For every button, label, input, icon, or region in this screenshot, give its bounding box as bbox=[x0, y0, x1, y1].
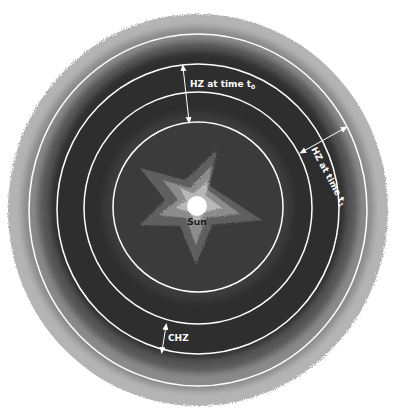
hz-t0-label: HZ at time t0 bbox=[190, 79, 255, 90]
chz-label: CHZ bbox=[168, 333, 189, 343]
sun-label: Sun bbox=[187, 217, 206, 227]
sun-icon bbox=[187, 196, 207, 216]
habitable-zone-diagram: Sun HZ at time t0 HZ at time t1 CHZ bbox=[0, 0, 396, 410]
